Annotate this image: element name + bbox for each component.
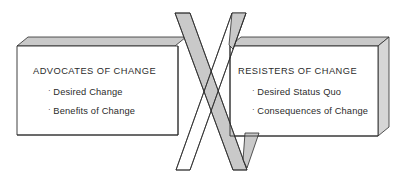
resisters-arrow-lower-stub <box>243 133 259 168</box>
right-box-top-face <box>230 37 389 46</box>
diagram-canvas: ADVOCATES OF CHANGE ·Desired Change ·Ben… <box>0 0 407 177</box>
left-box-front-face <box>17 46 178 135</box>
left-box-top-face <box>17 37 186 46</box>
right-box-side-face <box>378 37 389 136</box>
change-force-field-diagram <box>0 0 407 177</box>
right-box-front-face <box>230 46 378 136</box>
